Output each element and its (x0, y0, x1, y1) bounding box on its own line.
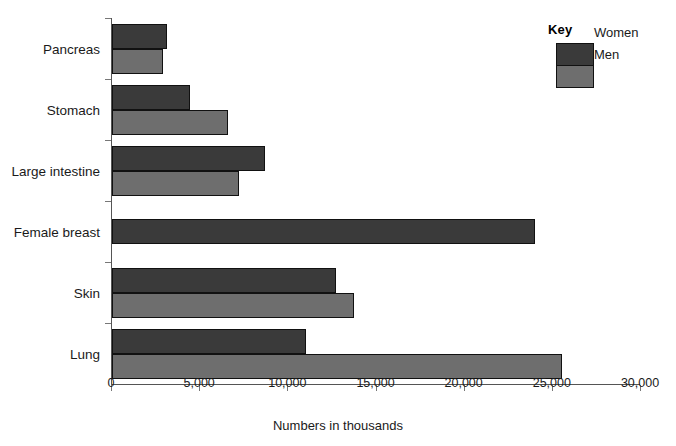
y-tick-mark (105, 79, 111, 80)
bar-chart: Key Women Men 05,00010,00015,00020,00025… (0, 0, 676, 446)
category-label: Large intestine (11, 163, 100, 178)
bar-women-pancreas (112, 24, 167, 49)
plot-area (111, 18, 640, 384)
category-label: Female breast (14, 224, 100, 239)
y-tick-mark (105, 201, 111, 202)
x-tick-label: 30,000 (621, 376, 659, 390)
x-tick-label: 20,000 (445, 376, 483, 390)
category-label: Pancreas (43, 41, 100, 56)
bar-men-lung (112, 354, 562, 379)
bar-men-large-intestine (112, 171, 239, 196)
bar-men-stomach (112, 110, 228, 135)
bar-men-pancreas (112, 49, 163, 74)
x-axis-title: Numbers in thousands (0, 418, 676, 433)
category-label: Skin (74, 285, 100, 300)
x-tick-label: 25,000 (533, 376, 571, 390)
y-tick-mark (105, 140, 111, 141)
y-tick-mark (105, 323, 111, 324)
bar-women-large-intestine (112, 146, 265, 171)
x-tick-label: 0 (108, 376, 115, 390)
bar-women-female-breast (112, 219, 535, 244)
y-tick-mark (105, 262, 111, 263)
category-label: Lung (70, 346, 100, 361)
bar-men-skin (112, 293, 354, 318)
category-label: Stomach (47, 102, 100, 117)
bar-women-skin (112, 268, 336, 293)
y-tick-mark (105, 18, 111, 19)
x-tick-label: 5,000 (184, 376, 215, 390)
x-tick-label: 10,000 (268, 376, 306, 390)
bar-women-lung (112, 329, 306, 354)
bar-women-stomach (112, 85, 190, 110)
x-tick-label: 15,000 (356, 376, 394, 390)
